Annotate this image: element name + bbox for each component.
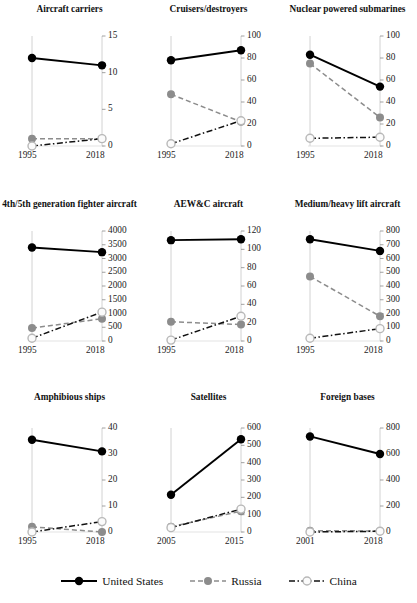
series-line [32,522,102,532]
y-axis-tick-label: 0 [386,336,391,345]
data-point [237,46,245,54]
series-line [171,316,241,340]
series-line [32,319,102,328]
data-point [376,450,384,458]
x-axis-tick-label: 2018 [86,150,105,160]
x-axis-tick-label: 1995 [296,150,315,160]
y-axis-tick-label: 0 [386,527,391,536]
data-point [28,334,36,342]
panel-title: Foreign bases [278,392,417,403]
series-line [32,312,102,338]
data-point [167,140,175,148]
y-axis-tick-label: 300 [386,295,400,304]
y-axis-tick-label: 80 [247,263,256,272]
y-axis-tick-label: 800 [386,226,400,235]
y-axis-tick-label: 600 [386,449,400,458]
y-axis-tick-label: 100 [247,510,261,519]
series-line [171,439,241,494]
chart-panel: Nuclear powered submarines02040608010019… [278,0,417,195]
data-point [98,248,106,256]
y-axis-tick-label: 60 [247,281,256,290]
panel-title: 4th/5th generation fighter aircraft [0,199,139,210]
series-line [32,58,102,65]
data-point [237,235,245,243]
x-axis-tick-label: 2018 [86,345,105,355]
legend-symbol [189,575,227,587]
chart-panel: Aircraft carriers05101519952018 [0,0,139,195]
y-axis-tick-label: 1500 [108,295,127,304]
y-axis-tick-label: 500 [108,322,122,331]
y-axis-tick-label: 100 [386,322,400,331]
y-axis-tick-label: 0 [247,336,252,345]
data-point [167,318,175,326]
y-axis-tick-label: 400 [386,475,400,484]
data-point [376,247,384,255]
y-axis-tick-label: 0 [247,141,252,150]
y-axis-tick-label: 600 [386,254,400,263]
x-axis-tick-label: 2018 [364,150,383,160]
y-axis-tick-label: 0 [247,527,252,536]
series-line [171,94,241,122]
data-point [167,524,175,532]
x-axis-tick-label: 1995 [18,150,37,160]
data-point [167,56,175,64]
y-axis-tick-label: 100 [247,244,261,253]
data-point [237,435,245,443]
panel-title: Amphibious ships [0,392,139,403]
x-axis-tick-label: 2018 [86,536,105,546]
y-axis-tick-label: 20 [108,475,117,484]
data-point [376,527,384,535]
y-axis-tick-label: 2500 [108,267,127,276]
data-point [28,528,36,536]
data-point [28,324,36,332]
y-axis-tick-label: 20 [386,119,395,128]
data-point [376,113,384,121]
y-axis-tick-label: 60 [386,75,395,84]
data-point [28,54,36,62]
x-axis-tick-label: 2001 [296,536,315,546]
y-axis-tick-label: 3500 [108,240,127,249]
y-axis-tick-label: 400 [247,458,261,467]
chart-panel: Foreign bases020040060080020012018 [278,388,417,570]
x-axis-tick-label: 1995 [18,345,37,355]
legend-item: China [288,575,357,587]
legend-label: Russia [231,575,261,587]
data-point [237,312,245,320]
legend-item: United States [60,575,163,587]
x-axis-tick-label: 2018 [225,150,244,160]
data-point [306,334,314,342]
panel-title: AEW&C aircraft [139,199,278,210]
y-axis-tick-label: 120 [247,226,261,235]
y-axis-tick-label: 10 [108,68,117,77]
plot-area [169,36,243,146]
x-axis-tick-label: 1995 [296,345,315,355]
data-point [28,436,36,444]
series-line [310,436,380,454]
y-axis-tick-label: 500 [386,267,400,276]
plot-area [308,428,382,532]
plot-area [30,36,104,146]
x-axis-tick-label: 1995 [157,150,176,160]
y-axis-tick-label: 200 [386,501,400,510]
y-axis-tick-label: 100 [247,31,261,40]
y-axis-tick-label: 4000 [108,226,127,235]
legend-symbol [60,575,98,587]
data-point [98,135,106,143]
data-point [306,528,314,536]
panel-title: Satellites [139,392,278,403]
series-line [171,50,241,60]
x-axis-tick-label: 2018 [225,345,244,355]
series-line [171,322,241,325]
y-axis-tick-label: 1000 [108,309,127,318]
series-line [32,527,102,532]
plot-area [308,36,382,146]
small-multiples-chart-grid: Aircraft carriers05101519952018Cruisers/… [0,0,417,570]
y-axis-tick-label: 60 [247,75,256,84]
data-point [237,505,245,513]
data-point [376,325,384,333]
chart-panel: Amphibious ships01020304019952018 [0,388,139,570]
y-axis-tick-label: 0 [386,141,391,150]
data-point [98,447,106,455]
chart-panel: AEW&C aircraft02040608010012019952018 [139,195,278,388]
series-line [310,137,380,138]
